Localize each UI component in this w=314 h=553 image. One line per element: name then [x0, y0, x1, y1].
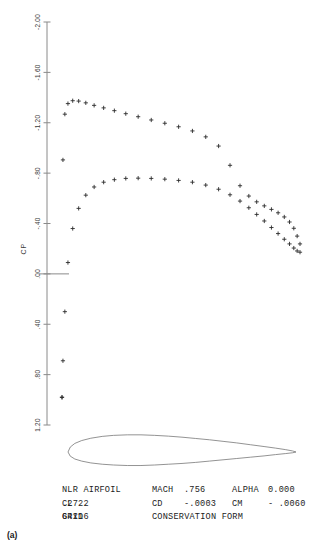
data-point — [71, 99, 75, 103]
data-series-upper-surface — [60, 99, 302, 400]
y-axis-tick-label: -1.60 — [34, 64, 41, 80]
data-point — [269, 207, 273, 211]
data-point — [204, 135, 208, 139]
data-point — [217, 187, 221, 191]
data-point — [63, 310, 67, 314]
airfoil-outline — [68, 435, 296, 466]
data-point — [92, 103, 96, 107]
data-point — [77, 206, 81, 210]
data-point — [63, 112, 67, 116]
data-point — [177, 178, 181, 182]
data-point — [66, 102, 70, 106]
data-point — [262, 219, 266, 223]
annotation-value: 0.000 — [268, 485, 295, 495]
y-axis-label: CP — [20, 243, 27, 255]
data-point — [298, 242, 302, 246]
data-point — [177, 125, 181, 129]
data-point — [136, 115, 140, 119]
pressure-distribution-figure: -2.00-1.60-1.20-.80-.40.00.40.801.20CPNL… — [0, 0, 314, 553]
data-point — [149, 176, 153, 180]
data-point — [149, 118, 153, 122]
data-point — [276, 231, 280, 235]
data-point — [60, 395, 64, 399]
data-point — [77, 99, 81, 103]
data-point — [247, 194, 251, 198]
data-point — [112, 109, 116, 113]
data-point — [84, 193, 88, 197]
data-point — [136, 176, 140, 180]
data-point — [269, 225, 273, 229]
data-series-lower-surface — [60, 176, 302, 399]
annotation-label: CONSERVATION FORM — [152, 512, 243, 522]
data-point — [102, 180, 106, 184]
data-point — [228, 163, 232, 167]
data-point — [102, 106, 106, 110]
data-point — [282, 215, 286, 219]
annotation-value: .756 — [184, 485, 205, 495]
annotation-value: .2722 — [62, 499, 89, 509]
data-point — [287, 220, 291, 224]
y-axis-tick-label: 1.20 — [34, 418, 41, 432]
data-point — [255, 200, 259, 204]
data-point — [287, 242, 291, 246]
data-point — [61, 359, 65, 363]
cp-plot-canvas: -2.00-1.60-1.20-.80-.40.00.40.801.20CPNL… — [0, 0, 314, 553]
data-point — [190, 129, 194, 133]
data-point — [238, 199, 242, 203]
y-axis-tick-label: .80 — [34, 370, 41, 380]
data-point — [190, 180, 194, 184]
data-point — [204, 183, 208, 187]
data-point — [217, 144, 221, 148]
y-axis-tick-label: -.80 — [34, 167, 41, 179]
data-point — [66, 260, 70, 264]
data-point — [71, 226, 75, 230]
y-axis-tick-label: .40 — [34, 319, 41, 329]
data-point — [292, 246, 296, 250]
data-point — [238, 184, 242, 188]
data-point — [247, 206, 251, 210]
data-point — [295, 234, 299, 238]
data-point — [163, 121, 167, 125]
annotation-label: ALPHA — [232, 485, 259, 495]
y-axis-tick-label: -1.20 — [34, 115, 41, 131]
annotation-label: MACH — [152, 485, 173, 495]
data-point — [61, 158, 65, 162]
annotation-label: NLR AIRFOIL — [62, 485, 121, 495]
data-point — [112, 178, 116, 182]
panel-label: (a) — [7, 530, 17, 540]
y-axis-tick-label: -.40 — [34, 217, 41, 229]
y-axis-tick-label: -2.00 — [34, 14, 41, 30]
data-point — [262, 204, 266, 208]
data-point — [276, 211, 280, 215]
annotation-label: CD — [152, 499, 163, 509]
annotation-value: 64x16 — [62, 512, 89, 522]
data-point — [84, 101, 88, 105]
annotation-value: -.0003 — [184, 499, 216, 509]
data-point — [228, 193, 232, 197]
data-point — [292, 226, 296, 230]
data-point — [282, 237, 286, 241]
data-point — [92, 185, 96, 189]
data-point — [124, 176, 128, 180]
data-point — [255, 212, 259, 216]
data-point — [163, 177, 167, 181]
data-point — [124, 112, 128, 116]
annotation-label: CM — [232, 499, 243, 509]
annotation-value: - .0060 — [268, 499, 306, 509]
